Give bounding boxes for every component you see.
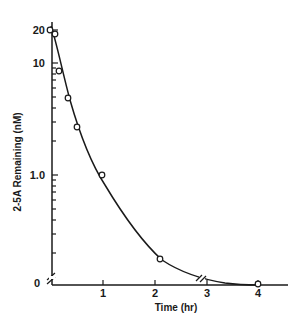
x-tick-label-3: 3 — [204, 287, 210, 299]
data-point — [157, 256, 163, 262]
y-axis-label: 2-5A Remaining (nM) — [12, 112, 23, 211]
y-tick-label-0: 0 — [34, 277, 40, 289]
data-point — [99, 172, 105, 178]
curve-break-icon — [196, 274, 206, 282]
x-axis-label: Time (hr) — [155, 302, 198, 313]
data-points — [47, 27, 261, 287]
data-point — [255, 281, 261, 287]
x-tick-label-2: 2 — [152, 287, 158, 299]
decay-chart: 20 10 1.0 0 1 2 3 4 Time (hr) 2-5A Remai… — [0, 0, 300, 323]
data-point — [74, 124, 80, 130]
x-tick-label-1: 1 — [100, 287, 106, 299]
y-tick-label-20: 20 — [33, 24, 45, 36]
y-axis-break-icon — [47, 273, 55, 284]
y-ticks — [52, 30, 58, 253]
data-point — [65, 95, 71, 101]
data-point — [56, 68, 62, 74]
y-tick-label-1: 1.0 — [30, 169, 45, 181]
decay-curve — [51, 26, 258, 285]
data-point — [52, 31, 58, 37]
data-point — [47, 27, 53, 33]
x-tick-label-4: 4 — [255, 287, 262, 299]
y-tick-label-10: 10 — [33, 57, 45, 69]
